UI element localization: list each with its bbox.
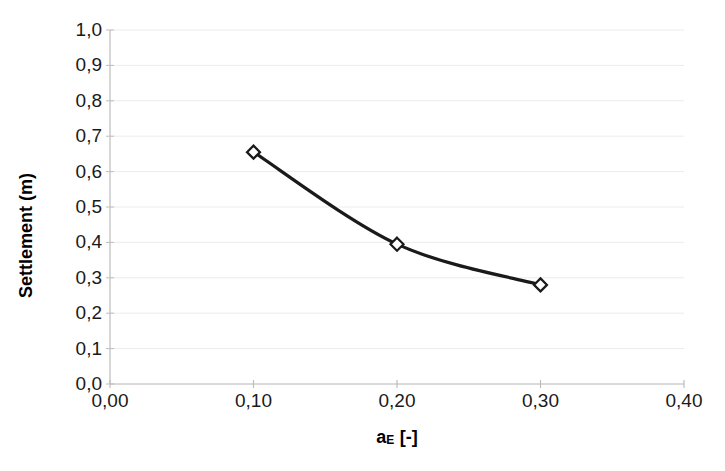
data-point-marker: [391, 238, 404, 251]
axis-ticks: [106, 30, 684, 388]
x-axis-tick-labels: 0,000,100,200,300,40: [110, 390, 684, 416]
x-axis-title-unit: [-]: [395, 427, 418, 447]
data-markers: [247, 146, 547, 292]
x-axis-tick-label: 0,00: [65, 390, 155, 412]
x-axis-tick-label: 0,30: [496, 390, 586, 412]
x-axis-title-subscript: E: [386, 433, 395, 447]
x-axis-title-base: a: [376, 427, 386, 447]
x-axis-title: aE [-]: [110, 427, 684, 448]
chart-figure: Settlement (m) 0,00,10,20,30,40,50,60,70…: [0, 0, 725, 471]
gridlines: [110, 30, 684, 384]
x-axis-tick-label: 0,10: [209, 390, 299, 412]
data-point-marker: [534, 278, 547, 291]
x-axis-tick-label: 0,40: [639, 390, 725, 412]
x-axis-tick-label: 0,20: [352, 390, 442, 412]
